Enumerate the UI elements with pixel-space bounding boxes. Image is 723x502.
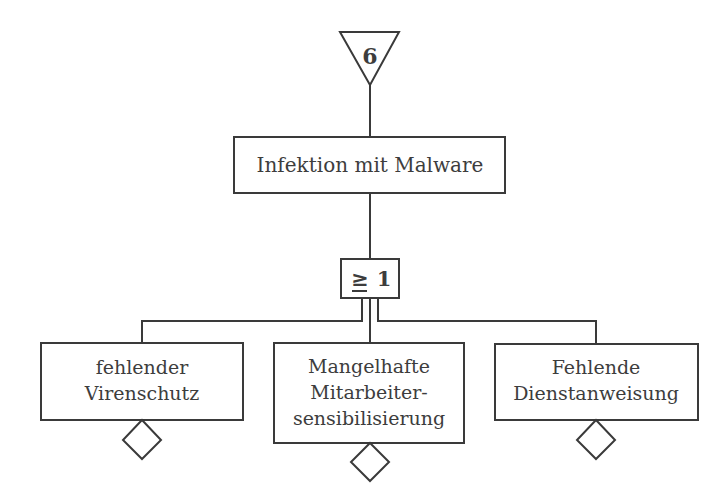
diamond-icon: [123, 420, 161, 459]
basic-event-label-line: Mitarbeiter-: [310, 381, 427, 403]
top-event-label: Infektion mit Malware: [257, 153, 484, 177]
basic-event-label-line: Virenschutz: [84, 382, 200, 404]
branch-connectors: [142, 298, 596, 344]
basic-event-2: Mangelhafte Mitarbeiter- sensibilisierun…: [274, 343, 464, 481]
basic-event-label-line: Fehlende: [552, 356, 641, 378]
basic-event-label-line: fehlender: [96, 356, 189, 378]
or-gate: ≥ 1: [341, 259, 399, 298]
basic-event-1: fehlender Virenschutz: [41, 343, 243, 459]
basic-event-3: Fehlende Dienstanweisung: [495, 344, 698, 459]
gate-value: 1: [377, 266, 392, 291]
basic-event-label-line: sensibilisierung: [293, 407, 445, 429]
basic-event-label-line: Dienstanweisung: [513, 382, 679, 404]
transfer-label: 6: [362, 43, 377, 69]
top-event: Infektion mit Malware: [234, 137, 505, 193]
branch-right: [378, 298, 596, 344]
transfer-triangle: 6: [340, 32, 399, 85]
basic-event-label-line: Mangelhafte: [308, 355, 430, 377]
diamond-icon: [577, 420, 615, 459]
gate-symbol: ≥: [351, 266, 369, 291]
diamond-icon: [351, 443, 389, 481]
branch-left: [142, 298, 362, 343]
fault-tree-diagram: 6 Infektion mit Malware ≥ 1 fehlender Vi…: [0, 0, 723, 502]
